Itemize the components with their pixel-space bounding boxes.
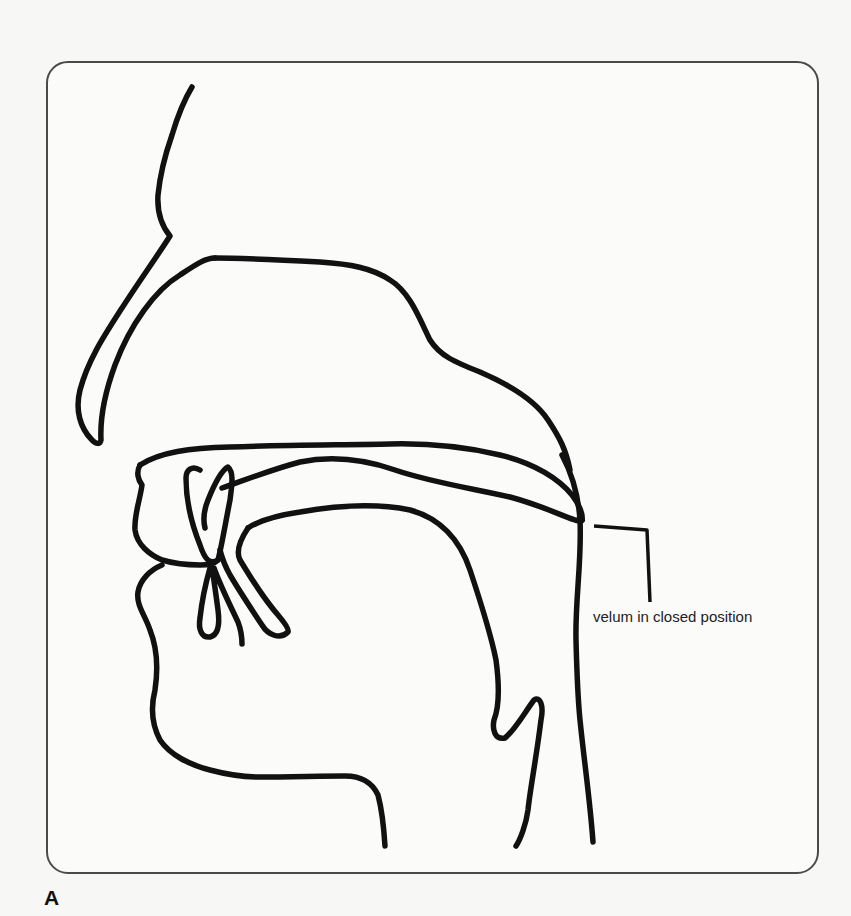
velum <box>222 459 582 521</box>
panel-label: A <box>44 886 59 910</box>
nose-outline <box>78 87 215 443</box>
upper-teeth <box>186 467 232 562</box>
vocal-tract-drawing <box>0 0 851 916</box>
tongue-tip <box>220 528 288 636</box>
velum-leader-line <box>594 526 650 602</box>
tongue <box>248 506 542 846</box>
nasal-cavity-outline <box>215 258 570 470</box>
pharyngeal-wall <box>562 455 593 842</box>
vocal-tract-figure: velum in closed position A <box>0 0 851 916</box>
lower-lip-chin <box>138 565 385 846</box>
velum-annotation-label: velum in closed position <box>593 608 752 625</box>
